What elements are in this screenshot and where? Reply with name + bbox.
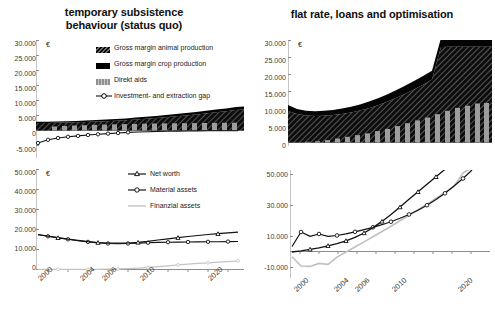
xtick-br-1: 2004 — [332, 276, 350, 294]
ytick-tl-0: 30.000 — [0, 40, 36, 47]
ytick-tl-2: 20.000 — [0, 70, 36, 77]
ytick-tl-4: 10.000 — [0, 100, 36, 107]
ytick-bl-0: 50.000 — [0, 169, 36, 176]
xtick-br-2: 2006 — [353, 276, 371, 294]
ytick-tr-0: 30.000 — [248, 40, 286, 47]
panel-top-right-title: flat rate, loans and optimisation — [260, 8, 484, 21]
ytick-bl-1: 40.000 — [0, 188, 36, 195]
ytick-tr-3: 15.000 — [248, 91, 286, 98]
line-net-worth-br — [292, 170, 454, 252]
ytick-tl-7: -5.000 — [0, 146, 36, 153]
ytick-bl-2: 30.000 — [0, 207, 36, 214]
ytick-tl-5: 5.000 — [0, 115, 36, 122]
plot-bottom-right — [290, 170, 490, 278]
ytick-bl-5: 0 — [0, 264, 36, 271]
title-line-1: temporary subsistence — [65, 6, 183, 18]
markers-material-assets-br — [299, 177, 465, 238]
ytick-bl-3: 20.000 — [0, 226, 36, 233]
ytick-tl-3: 15.000 — [0, 85, 36, 92]
ytick-br-1: 30.000 — [248, 202, 288, 209]
ytick-bl-4: 10.000 — [0, 245, 36, 252]
title-line-2: behaviour (status quo) — [66, 19, 182, 31]
plot-top-right — [288, 40, 492, 152]
panel-bottom-right: 50.000 30.000 10.000 -10.000 — [248, 163, 495, 326]
xtick-br-3: 2010 — [390, 276, 408, 294]
ytick-br-3: -10.000 — [248, 264, 288, 271]
ytick-tr-2: 20.000 — [248, 74, 286, 81]
ytick-br-2: 10.000 — [248, 233, 288, 240]
ytick-br-0: 50.000 — [248, 171, 288, 178]
panel-top-right: flat rate, loans and optimisation € 30.0… — [248, 0, 495, 163]
plot-top-left — [36, 40, 244, 158]
ytick-tl-6: 0 — [0, 130, 36, 137]
markers-net-worth-br — [308, 175, 438, 251]
panel-top-left-title: temporary subsistence behaviour (status … — [24, 6, 224, 32]
xtick-br-0: 2000 — [292, 276, 310, 294]
figure-root: temporary subsistence behaviour (status … — [0, 0, 495, 326]
ytick-tr-6: 0 — [248, 142, 286, 149]
xtick-br-4: 2020 — [456, 276, 474, 294]
ytick-tr-1: 25.000 — [248, 57, 286, 64]
panel-top-left: temporary subsistence behaviour (status … — [0, 0, 248, 163]
plot-bottom-left — [36, 169, 244, 273]
ytick-tl-1: 25.000 — [0, 55, 36, 62]
ytick-tr-4: 10.000 — [248, 108, 286, 115]
ytick-tr-5: 5.000 — [248, 125, 286, 132]
panel-bottom-left: € 50.000 40.000 30.000 20.000 10.000 0 N… — [0, 163, 248, 326]
